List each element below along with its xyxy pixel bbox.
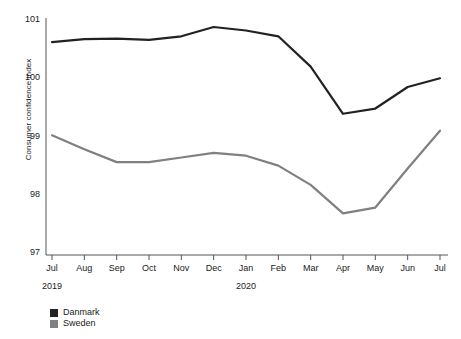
y-tick-label: 97	[8, 247, 40, 257]
y-tick-label: 98	[8, 189, 40, 199]
legend-item[interactable]: Danmark	[50, 307, 100, 318]
legend-color-swatch	[50, 320, 58, 328]
x-axis-ticks	[52, 255, 440, 260]
series-line-danmark	[52, 27, 440, 114]
legend-item[interactable]: Sweden	[50, 318, 100, 329]
y-tick-label: 100	[8, 72, 40, 82]
y-tick-label: 99	[8, 131, 40, 141]
legend-item-label: Sweden	[63, 318, 96, 329]
x-tick-label: Jul	[420, 263, 460, 273]
x-axis-period-label: 2019	[29, 281, 75, 291]
consumer-confidence-line-chart: Consumer confidence index 979899100101 J…	[0, 0, 461, 339]
legend-color-swatch	[50, 309, 58, 317]
x-axis-period-label: 2020	[223, 281, 269, 291]
series-line-sweden	[52, 131, 440, 214]
legend-item-label: Danmark	[63, 307, 100, 318]
chart-legend: DanmarkSweden	[50, 307, 100, 329]
axis-lines	[46, 18, 448, 255]
y-tick-label: 101	[8, 14, 40, 24]
data-series-lines	[52, 27, 440, 213]
